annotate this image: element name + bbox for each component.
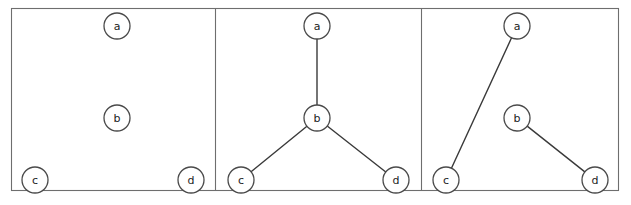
node-circle-b[interactable] xyxy=(504,105,530,131)
node-circle-a[interactable] xyxy=(104,13,130,39)
node-d[interactable]: d xyxy=(582,167,608,193)
node-b[interactable]: b xyxy=(304,105,330,131)
node-d[interactable]: d xyxy=(383,167,409,193)
node-circle-b[interactable] xyxy=(104,105,130,131)
node-circle-a[interactable] xyxy=(504,13,530,39)
graph-figure: abcdabcdabcd xyxy=(0,0,631,205)
node-circle-c[interactable] xyxy=(228,167,254,193)
node-circle-d[interactable] xyxy=(383,167,409,193)
node-a[interactable]: a xyxy=(504,13,530,39)
node-d[interactable]: d xyxy=(178,167,204,193)
node-a[interactable]: a xyxy=(304,13,330,39)
node-b[interactable]: b xyxy=(504,105,530,131)
node-circle-a[interactable] xyxy=(304,13,330,39)
node-circle-c[interactable] xyxy=(22,167,48,193)
node-c[interactable]: c xyxy=(433,167,459,193)
node-circle-c[interactable] xyxy=(433,167,459,193)
node-a[interactable]: a xyxy=(104,13,130,39)
node-c[interactable]: c xyxy=(22,167,48,193)
node-b[interactable]: b xyxy=(104,105,130,131)
node-circle-d[interactable] xyxy=(582,167,608,193)
node-circle-d[interactable] xyxy=(178,167,204,193)
graph-figure-canvas: abcdabcdabcd xyxy=(0,0,631,205)
node-c[interactable]: c xyxy=(228,167,254,193)
node-circle-b[interactable] xyxy=(304,105,330,131)
